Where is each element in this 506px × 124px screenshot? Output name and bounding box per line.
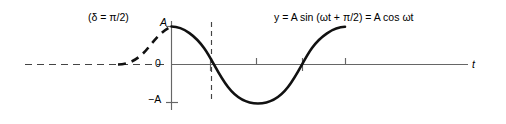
equation-annotation: y = A sin (ωt + π/2) = A cos ωt — [274, 12, 414, 23]
ylabel-zero: 0 — [155, 58, 161, 69]
ylabel-positive-amplitude: A — [160, 17, 167, 28]
waveform-figure: (δ = π/2) y = A sin (ωt + π/2) = A cos ω… — [0, 0, 506, 124]
ylabel-negative-amplitude: −A — [148, 94, 161, 105]
cosine-curve-dashed-segment — [118, 27, 172, 65]
plot-canvas — [0, 0, 506, 124]
xlabel-time-axis: t — [472, 59, 475, 70]
phase-annotation: (δ = π/2) — [88, 12, 129, 23]
